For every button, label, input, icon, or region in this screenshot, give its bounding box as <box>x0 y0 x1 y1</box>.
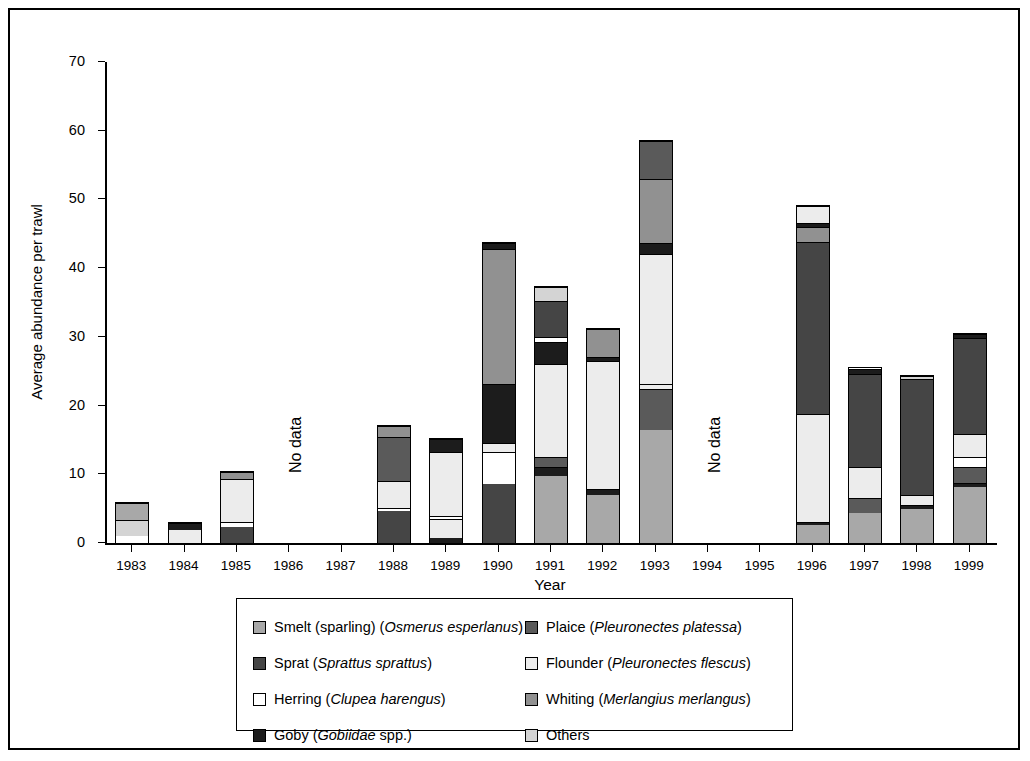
bar-segment-whiting[interactable] <box>587 329 619 357</box>
y-axis-tick-label: 20 <box>69 397 85 413</box>
x-axis-tick <box>131 545 132 552</box>
bar-1989[interactable] <box>429 438 463 543</box>
x-axis-tick-label: 1994 <box>692 558 722 573</box>
bar-segment-goby[interactable] <box>169 523 201 530</box>
legend: Smelt (sparling) (Osmerus esperlanus)Spr… <box>236 598 793 731</box>
bar-segment-others[interactable] <box>116 520 148 536</box>
bar-segment-sprat[interactable] <box>378 511 410 543</box>
x-axis-tick-label: 1986 <box>273 558 303 573</box>
bar-segment-sprat[interactable] <box>901 379 933 495</box>
bar-segment-flounder[interactable] <box>221 479 253 522</box>
bar-segment-whiting[interactable] <box>483 249 515 384</box>
bar-segment-plaice[interactable] <box>535 457 567 467</box>
x-axis-tick <box>498 545 499 552</box>
legend-swatch-plaice-icon <box>525 621 538 634</box>
x-axis-tick-label: 1991 <box>535 558 565 573</box>
bar-segment-smelt[interactable] <box>954 487 986 543</box>
bar-segment-whiting[interactable] <box>640 179 672 243</box>
bar-segment-goby[interactable] <box>430 439 462 451</box>
bar-segment-smelt[interactable] <box>640 430 672 543</box>
bar-segment-goby[interactable] <box>430 538 462 543</box>
bar-segment-herring[interactable] <box>954 457 986 467</box>
bar-1990[interactable] <box>482 242 516 543</box>
bar-1993[interactable] <box>639 140 673 543</box>
bar-segment-herring[interactable] <box>483 452 515 484</box>
bar-segment-sprat[interactable] <box>535 301 567 337</box>
bar-segment-sprat[interactable] <box>483 484 515 543</box>
bar-segment-goby[interactable] <box>535 467 567 475</box>
y-axis-label: Average abundance per trawl <box>28 204 45 400</box>
bar-segment-whiting[interactable] <box>221 472 253 479</box>
x-axis-tick-label: 1995 <box>744 558 774 573</box>
bar-1999[interactable] <box>953 333 987 543</box>
bar-segment-whiting[interactable] <box>797 227 829 242</box>
bar-segment-sprat[interactable] <box>797 242 829 414</box>
bar-1992[interactable] <box>586 328 620 543</box>
bar-1991[interactable] <box>534 286 568 543</box>
bar-segment-sprat[interactable] <box>954 338 986 434</box>
bar-segment-flounder[interactable] <box>430 519 462 538</box>
legend-item-herring[interactable]: Herring (Clupea harengus) <box>253 685 523 713</box>
x-axis-tick-label: 1989 <box>430 558 460 573</box>
legend-item-goby[interactable]: Goby (Gobiidae spp.) <box>253 721 523 749</box>
y-axis-tick-label: 0 <box>77 534 85 550</box>
bar-segment-flounder[interactable] <box>378 481 410 508</box>
y-axis-tick-label: 50 <box>69 190 85 206</box>
bar-segment-goby[interactable] <box>483 384 515 443</box>
legend-swatch-goby-icon <box>253 729 266 742</box>
legend-label-others: Others <box>546 727 590 743</box>
bar-segment-goby[interactable] <box>535 342 567 364</box>
bar-segment-plaice[interactable] <box>954 467 986 483</box>
bar-segment-flounder[interactable] <box>849 467 881 498</box>
legend-item-whiting[interactable]: Whiting (Merlangius merlangus) <box>525 685 751 713</box>
bar-segment-smelt[interactable] <box>797 525 829 543</box>
legend-item-others[interactable]: Others <box>525 721 751 749</box>
plot-area: 0102030405060701983198419851986198719881… <box>105 62 995 543</box>
legend-swatch-smelt-icon <box>253 621 266 634</box>
bar-segment-smelt[interactable] <box>116 503 148 519</box>
bar-1997[interactable] <box>848 367 882 543</box>
legend-item-smelt[interactable]: Smelt (sparling) (Osmerus esperlanus) <box>253 613 523 641</box>
y-axis-tick: 60 <box>98 130 105 131</box>
bar-segment-smelt[interactable] <box>901 509 933 543</box>
bar-segment-flounder[interactable] <box>483 443 515 453</box>
x-axis-tick <box>864 545 865 552</box>
bar-segment-flounder[interactable] <box>535 364 567 457</box>
y-axis-tick-label: 30 <box>69 328 85 344</box>
bar-segment-flounder[interactable] <box>797 206 829 222</box>
bar-segment-flounder[interactable] <box>587 361 619 489</box>
bar-segment-sprat[interactable] <box>849 374 881 467</box>
bar-segment-plaice[interactable] <box>640 389 672 430</box>
bar-segment-flounder[interactable] <box>430 452 462 517</box>
legend-swatch-whiting-icon <box>525 693 538 706</box>
legend-label-whiting: Whiting (Merlangius merlangus) <box>546 691 751 707</box>
bar-segment-smelt[interactable] <box>535 476 567 543</box>
x-axis-tick <box>393 545 394 552</box>
bar-segment-smelt[interactable] <box>587 495 619 543</box>
bar-1998[interactable] <box>900 375 934 543</box>
legend-label-herring: Herring (Clupea harengus) <box>274 691 446 707</box>
bar-segment-flounder[interactable] <box>640 254 672 385</box>
bar-segment-herring[interactable] <box>116 536 148 543</box>
bar-segment-plaice[interactable] <box>849 498 881 512</box>
bar-segment-sprat[interactable] <box>221 527 253 543</box>
legend-item-sprat[interactable]: Sprat (Sprattus sprattus) <box>253 649 523 677</box>
bar-segment-flounder[interactable] <box>901 495 933 505</box>
bar-segment-smelt[interactable] <box>849 513 881 543</box>
bar-1983[interactable] <box>115 502 149 543</box>
bar-segment-flounder[interactable] <box>169 530 201 543</box>
bar-segment-flounder[interactable] <box>954 434 986 457</box>
bar-1984[interactable] <box>168 522 202 543</box>
bar-segment-whiting[interactable] <box>378 426 410 436</box>
legend-item-flounder[interactable]: Flounder (Pleuronectes flescus) <box>525 649 751 677</box>
x-axis-tick <box>236 545 237 552</box>
bar-segment-plaice[interactable] <box>640 141 672 179</box>
bar-segment-others[interactable] <box>535 287 567 301</box>
bar-segment-flounder[interactable] <box>797 414 829 522</box>
bar-1985[interactable] <box>220 471 254 543</box>
bar-segment-goby[interactable] <box>640 243 672 254</box>
legend-item-plaice[interactable]: Plaice (Pleuronectes platessa) <box>525 613 751 641</box>
bar-1988[interactable] <box>377 425 411 543</box>
bar-1996[interactable] <box>796 205 830 543</box>
bar-segment-plaice[interactable] <box>378 437 410 482</box>
